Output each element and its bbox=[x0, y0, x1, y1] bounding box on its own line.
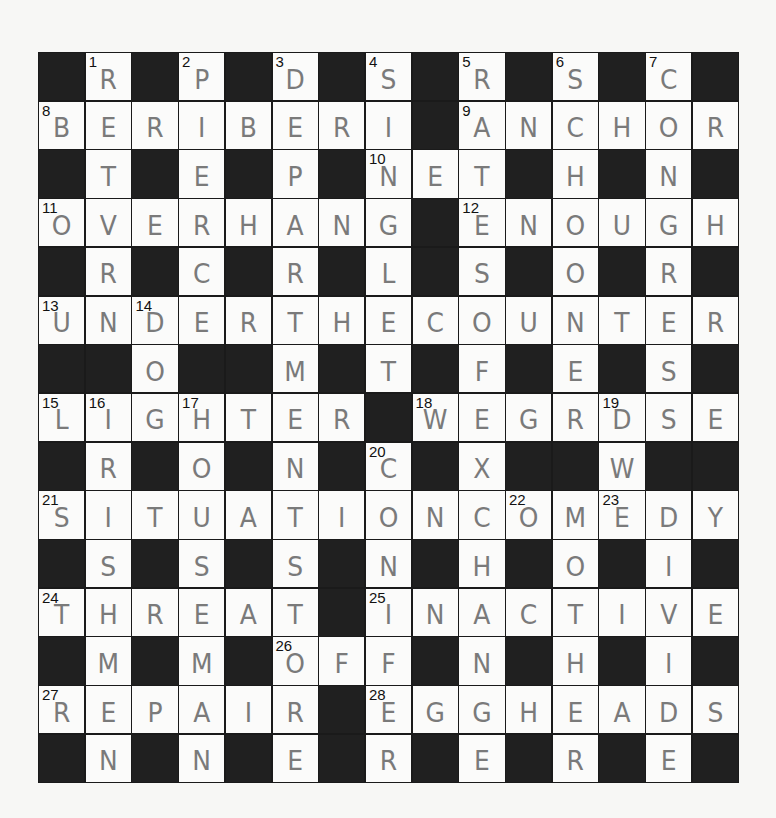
letter-cell[interactable]: N bbox=[459, 637, 504, 684]
letter-cell[interactable]: A bbox=[273, 199, 318, 246]
letter-cell[interactable]: T bbox=[86, 150, 131, 197]
letter-cell[interactable]: R bbox=[319, 102, 364, 149]
letter-cell[interactable]: L bbox=[366, 248, 411, 295]
letter-cell[interactable]: R bbox=[553, 735, 598, 782]
letter-cell[interactable]: N bbox=[506, 102, 551, 149]
letter-cell[interactable]: 23E bbox=[599, 491, 644, 538]
letter-cell[interactable]: O bbox=[459, 297, 504, 344]
letter-cell[interactable]: T bbox=[226, 394, 271, 441]
letter-cell[interactable]: O bbox=[553, 199, 598, 246]
letter-cell[interactable]: R bbox=[86, 443, 131, 490]
letter-cell[interactable]: 9A bbox=[459, 102, 504, 149]
letter-cell[interactable]: N bbox=[86, 297, 131, 344]
letter-cell[interactable]: T bbox=[459, 150, 504, 197]
letter-cell[interactable]: S bbox=[86, 540, 131, 587]
letter-cell[interactable]: E bbox=[459, 735, 504, 782]
letter-cell[interactable]: S bbox=[693, 686, 738, 733]
letter-cell[interactable]: T bbox=[273, 297, 318, 344]
letter-cell[interactable]: W bbox=[599, 443, 644, 490]
letter-cell[interactable]: O bbox=[646, 102, 691, 149]
letter-cell[interactable]: E bbox=[413, 150, 458, 197]
letter-cell[interactable]: U bbox=[599, 199, 644, 246]
letter-cell[interactable]: U bbox=[179, 491, 224, 538]
letter-cell[interactable]: N bbox=[646, 150, 691, 197]
letter-cell[interactable]: F bbox=[366, 637, 411, 684]
letter-cell[interactable]: A bbox=[459, 589, 504, 636]
letter-cell[interactable]: E bbox=[273, 735, 318, 782]
letter-cell[interactable]: G bbox=[506, 394, 551, 441]
letter-cell[interactable]: M bbox=[273, 345, 318, 392]
letter-cell[interactable]: G bbox=[366, 199, 411, 246]
letter-cell[interactable]: N bbox=[413, 589, 458, 636]
letter-cell[interactable]: 7C bbox=[646, 53, 691, 100]
letter-cell[interactable]: I bbox=[226, 686, 271, 733]
letter-cell[interactable]: S bbox=[179, 540, 224, 587]
letter-cell[interactable]: R bbox=[226, 297, 271, 344]
letter-cell[interactable]: 15L bbox=[39, 394, 84, 441]
letter-cell[interactable]: E bbox=[553, 686, 598, 733]
letter-cell[interactable]: F bbox=[459, 345, 504, 392]
letter-cell[interactable]: C bbox=[459, 491, 504, 538]
letter-cell[interactable]: H bbox=[553, 150, 598, 197]
letter-cell[interactable]: E bbox=[646, 735, 691, 782]
letter-cell[interactable]: T bbox=[132, 491, 177, 538]
letter-cell[interactable]: R bbox=[273, 248, 318, 295]
letter-cell[interactable]: 10N bbox=[366, 150, 411, 197]
letter-cell[interactable]: G bbox=[413, 686, 458, 733]
letter-cell[interactable]: E bbox=[553, 345, 598, 392]
letter-cell[interactable]: D bbox=[646, 686, 691, 733]
letter-cell[interactable]: H bbox=[459, 540, 504, 587]
letter-cell[interactable]: 2P bbox=[179, 53, 224, 100]
letter-cell[interactable]: R bbox=[132, 102, 177, 149]
letter-cell[interactable]: G bbox=[459, 686, 504, 733]
letter-cell[interactable]: O bbox=[553, 248, 598, 295]
letter-cell[interactable]: Y bbox=[693, 491, 738, 538]
letter-cell[interactable]: E bbox=[179, 150, 224, 197]
letter-cell[interactable]: R bbox=[366, 735, 411, 782]
letter-cell[interactable]: 6S bbox=[553, 53, 598, 100]
letter-cell[interactable]: N bbox=[366, 540, 411, 587]
letter-cell[interactable]: R bbox=[273, 686, 318, 733]
letter-cell[interactable]: E bbox=[132, 199, 177, 246]
letter-cell[interactable]: U bbox=[506, 297, 551, 344]
letter-cell[interactable]: E bbox=[86, 102, 131, 149]
letter-cell[interactable]: A bbox=[179, 686, 224, 733]
letter-cell[interactable]: P bbox=[132, 686, 177, 733]
letter-cell[interactable]: H bbox=[506, 686, 551, 733]
letter-cell[interactable]: A bbox=[226, 589, 271, 636]
letter-cell[interactable]: 4S bbox=[366, 53, 411, 100]
letter-cell[interactable]: R bbox=[86, 248, 131, 295]
letter-cell[interactable]: C bbox=[506, 589, 551, 636]
letter-cell[interactable]: V bbox=[646, 589, 691, 636]
letter-cell[interactable]: C bbox=[413, 297, 458, 344]
letter-cell[interactable]: I bbox=[179, 102, 224, 149]
letter-cell[interactable]: 13U bbox=[39, 297, 84, 344]
letter-cell[interactable]: H bbox=[86, 589, 131, 636]
letter-cell[interactable]: N bbox=[506, 199, 551, 246]
letter-cell[interactable]: R bbox=[132, 589, 177, 636]
letter-cell[interactable]: N bbox=[273, 443, 318, 490]
letter-cell[interactable]: 18W bbox=[413, 394, 458, 441]
letter-cell[interactable]: T bbox=[273, 491, 318, 538]
letter-cell[interactable]: R bbox=[179, 199, 224, 246]
letter-cell[interactable]: A bbox=[226, 491, 271, 538]
letter-cell[interactable]: X bbox=[459, 443, 504, 490]
letter-cell[interactable]: I bbox=[599, 589, 644, 636]
letter-cell[interactable]: T bbox=[553, 589, 598, 636]
letter-cell[interactable]: H bbox=[319, 297, 364, 344]
letter-cell[interactable]: 21S bbox=[39, 491, 84, 538]
letter-cell[interactable]: N bbox=[179, 735, 224, 782]
letter-cell[interactable]: T bbox=[366, 345, 411, 392]
letter-cell[interactable]: H bbox=[226, 199, 271, 246]
letter-cell[interactable]: 14D bbox=[132, 297, 177, 344]
letter-cell[interactable]: H bbox=[553, 637, 598, 684]
letter-cell[interactable]: S bbox=[646, 394, 691, 441]
letter-cell[interactable]: N bbox=[553, 297, 598, 344]
letter-cell[interactable]: 20C bbox=[366, 443, 411, 490]
letter-cell[interactable]: C bbox=[553, 102, 598, 149]
letter-cell[interactable]: 19D bbox=[599, 394, 644, 441]
letter-cell[interactable]: M bbox=[86, 637, 131, 684]
letter-cell[interactable]: 28E bbox=[366, 686, 411, 733]
letter-cell[interactable]: O bbox=[132, 345, 177, 392]
letter-cell[interactable]: 16I bbox=[86, 394, 131, 441]
